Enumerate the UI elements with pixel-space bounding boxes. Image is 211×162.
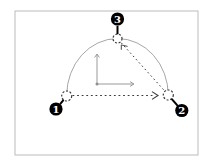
badge-2: 2 xyxy=(175,104,188,117)
dashed-arrow-chevron-icon xyxy=(152,92,158,100)
badge-3-label: 3 xyxy=(114,14,121,25)
waypoint-circle-3 xyxy=(113,34,122,43)
dashed-line-3-to-2 xyxy=(121,43,164,91)
figure-canvas: 1 2 3 xyxy=(0,0,211,162)
badge-2-label: 2 xyxy=(178,105,185,116)
figure-border xyxy=(15,11,198,155)
badge-stem-1 xyxy=(60,100,64,104)
waypoint-circle-1 xyxy=(62,91,72,101)
badge-1: 1 xyxy=(49,102,62,115)
badge-1-label: 1 xyxy=(53,104,60,115)
semicircle-arc xyxy=(67,39,169,96)
orientation-corner-mark-icon xyxy=(121,45,127,50)
waypoint-circle-2 xyxy=(163,90,173,100)
origin-dot xyxy=(96,83,99,86)
coordinate-axes xyxy=(95,54,134,86)
badge-3: 3 xyxy=(111,12,124,25)
waypoint-diagram: 1 2 3 xyxy=(0,0,211,162)
badge-stem-2 xyxy=(172,99,178,106)
